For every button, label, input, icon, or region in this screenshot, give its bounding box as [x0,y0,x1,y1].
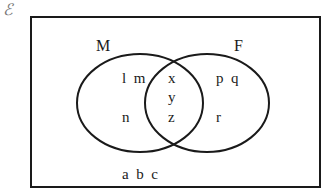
universal-set-symbol: ℰ [3,1,15,18]
set-f-label: F [234,37,243,54]
f-only-elements-row2: r [216,109,221,125]
intersection-element-y: y [168,89,176,105]
universal-set-rectangle [31,17,320,187]
m-only-elements-row1: l m [122,70,146,86]
outside-elements: a b c [122,166,158,182]
set-m-ellipse [77,54,203,152]
m-only-elements-row2: n [122,109,130,125]
f-only-elements-row1: p q [216,70,239,86]
set-m-label: M [96,37,110,54]
set-f-ellipse [145,54,269,152]
venn-diagram: ℰ M F l m n x y z p q r a b c [0,0,334,194]
intersection-element-z: z [168,109,175,125]
intersection-element-x: x [168,70,176,86]
